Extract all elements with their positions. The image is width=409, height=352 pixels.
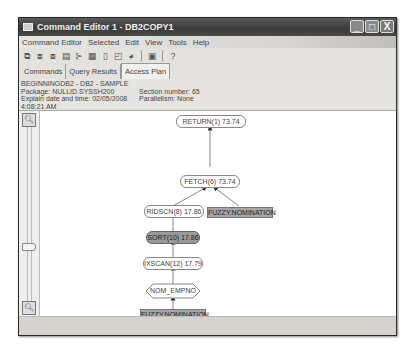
menu-view[interactable]: View — [145, 38, 162, 47]
app-icon — [23, 23, 33, 31]
clear-icon[interactable]: ▯ — [100, 51, 110, 61]
plan-node-table[interactable]: FUZZY.NOMINATION — [207, 207, 273, 218]
menu-edit[interactable]: Edit — [125, 38, 139, 47]
plan-node-return[interactable]: RETURN(1) 73.74 — [176, 115, 246, 128]
close-button[interactable]: X — [380, 20, 394, 33]
index-label: NOM_EMPNO — [150, 287, 196, 294]
plan-node-sort[interactable]: SORT(10) 17.86 — [146, 231, 200, 244]
menu-command-editor[interactable]: Command Editor — [22, 38, 82, 47]
title-bar[interactable]: Command Editor 1 - DB2COPY1 _ □ X — [19, 18, 396, 36]
options-icon[interactable]: ⊱ — [74, 51, 84, 61]
help-icon[interactable]: ? — [168, 51, 178, 61]
menu-tools[interactable]: Tools — [168, 38, 187, 47]
memo-icon[interactable]: ◰ — [113, 51, 123, 61]
plan-node-ixscan[interactable]: IXSCAN(12) 17.79 — [143, 257, 203, 270]
plan-node-index[interactable]: NOM_EMPNO — [145, 283, 201, 299]
explain-date-text: Explain date and time: 02/05/2008 4:08:2… — [21, 95, 139, 110]
plan-info-panel: BEGINNINGDB2 - DB2 - SAMPLE Package: NUL… — [19, 79, 396, 110]
execute-icon[interactable]: ⧉ — [22, 51, 32, 61]
execute-explain-icon[interactable]: ⧈ — [35, 51, 45, 61]
parallelism-text: Parallelism: None — [139, 95, 194, 110]
tab-bar: Commands Query Results Access Plan — [19, 64, 396, 79]
maximize-button[interactable]: □ — [365, 20, 379, 33]
tab-query-results[interactable]: Query Results — [66, 64, 121, 79]
database-line: BEGINNINGDB2 - DB2 - SAMPLE — [21, 80, 394, 88]
window-icon[interactable]: ▣ — [147, 51, 157, 61]
tab-access-plan[interactable]: Access Plan — [121, 63, 170, 79]
toolbar-separator — [141, 50, 142, 62]
explain-icon[interactable]: ⧇ — [48, 51, 58, 61]
task-icon[interactable]: ◕ — [126, 51, 136, 61]
toolbar-separator — [162, 50, 163, 62]
command-editor-window: Command Editor 1 - DB2COPY1 _ □ X Comman… — [18, 17, 397, 336]
status-bar — [19, 316, 396, 335]
section-number-text: Section number: 65 — [139, 88, 200, 96]
window-title: Command Editor 1 - DB2COPY1 — [37, 22, 174, 32]
menu-bar: Command Editor Selected Edit View Tools … — [19, 36, 396, 48]
menu-selected[interactable]: Selected — [88, 38, 119, 47]
toolbar: ⧉ ⧈ ⧇ ▤ ⊱ ▦ ▯ ◰ ◕ ▣ ? — [19, 48, 396, 64]
menu-help[interactable]: Help — [193, 38, 209, 47]
plan-node-ridscn[interactable]: RIDSCN(8) 17.86 — [144, 205, 204, 218]
database-icon[interactable]: ▦ — [87, 51, 97, 61]
package-text: Package: NULLID.SYSSH200 — [21, 88, 139, 96]
tab-commands[interactable]: Commands — [21, 64, 66, 79]
script-icon[interactable]: ▤ — [61, 51, 71, 61]
minimize-button[interactable]: _ — [350, 20, 364, 33]
plan-node-fetch[interactable]: FETCH(6) 73.74 — [180, 175, 240, 188]
access-plan-canvas[interactable]: 🔍︎ 🔍︎ RETURN(1) 73.74 FETCH(6) 73.74 — [19, 110, 396, 317]
